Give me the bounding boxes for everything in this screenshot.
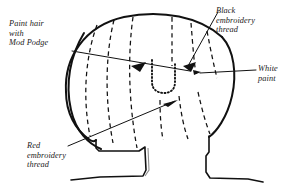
label-paint-hair: Paint hair with Mod Podge: [9, 19, 48, 48]
label-red-embroidery-thread: Red embroidery thread: [27, 141, 66, 170]
label-black-embroidery-thread: Black embroidery thread: [216, 6, 255, 35]
label-black-thread-line-3: thread: [216, 25, 255, 35]
leader-line-red-thread: [68, 101, 175, 146]
red-thread-arrowhead: [163, 100, 178, 107]
dashed-hair-lines: [86, 17, 217, 148]
label-black-thread-line-2: embroidery: [216, 16, 255, 26]
label-white-paint: White paint: [258, 64, 278, 83]
label-white-paint-line-1: White: [258, 64, 278, 74]
white-paint-arrow-tick: [193, 70, 201, 75]
label-paint-hair-line-1: Paint hair: [9, 19, 48, 29]
doll-head-diagram: Paint hair with Mod Podge Black embroide…: [0, 0, 289, 189]
body-shoulders: [71, 136, 263, 182]
label-black-thread-line-1: Black: [216, 6, 255, 16]
leader-line-white-paint: [200, 70, 256, 73]
head-outline: [66, 14, 234, 149]
label-white-paint-line-2: paint: [258, 74, 278, 84]
label-red-thread-line-1: Red: [27, 141, 66, 151]
label-red-thread-line-3: thread: [27, 160, 66, 170]
label-red-thread-line-2: embroidery: [27, 151, 66, 161]
label-paint-hair-line-2: with: [9, 29, 48, 39]
label-paint-hair-line-3: Mod Podge: [9, 38, 48, 48]
